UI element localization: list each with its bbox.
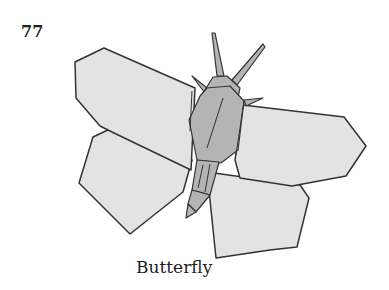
- butterfly-diagram: [0, 0, 389, 290]
- right-forewing: [235, 105, 366, 186]
- figure-caption: Butterfly: [136, 257, 212, 277]
- right-antenna: [232, 44, 265, 85]
- left-antenna: [212, 33, 224, 76]
- thorax: [189, 86, 244, 163]
- right-foreleg: [244, 98, 263, 106]
